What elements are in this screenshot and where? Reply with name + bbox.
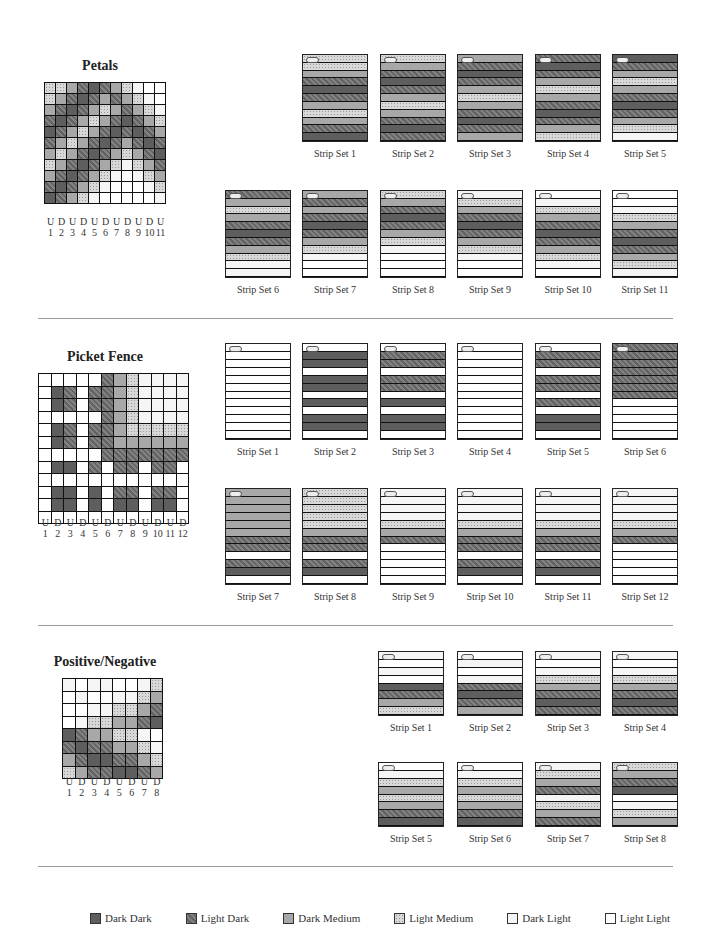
strip-band xyxy=(458,544,522,552)
strip-band xyxy=(613,125,677,133)
grid-cell xyxy=(127,399,139,411)
strip-band xyxy=(613,78,677,86)
strip-tag-icon xyxy=(382,765,395,771)
strip-set: Strip Set 8 xyxy=(612,762,678,844)
grid-cell xyxy=(39,387,51,399)
grid-cell xyxy=(177,424,189,436)
legend-label: Light Light xyxy=(620,912,670,924)
column-labels: UDUDUDUDUDU1234567891011 xyxy=(45,216,166,238)
grid-cell xyxy=(164,437,176,449)
strip-band xyxy=(613,261,677,269)
grid-cell xyxy=(52,474,64,486)
strip-band xyxy=(458,407,522,415)
grid-cell xyxy=(144,127,154,137)
strip-band xyxy=(613,668,677,676)
strip-band xyxy=(303,207,367,215)
strip-set: Strip Set 7 xyxy=(535,762,601,844)
column-direction: U xyxy=(63,776,76,787)
strip-band xyxy=(613,684,677,692)
grid-cell xyxy=(155,138,165,148)
strip-set: Strip Set 4 xyxy=(535,54,601,159)
grid-cell xyxy=(114,499,126,511)
strip-band xyxy=(458,431,522,439)
strip-band xyxy=(381,521,445,529)
grid-cell xyxy=(64,487,76,499)
grid-cell xyxy=(144,83,154,93)
swatch-icon xyxy=(90,913,101,924)
strip-band xyxy=(458,207,522,215)
grid-cell xyxy=(89,399,101,411)
grid-cell xyxy=(151,754,163,766)
strip-band xyxy=(303,118,367,126)
grid-cell xyxy=(88,692,100,704)
grid-cell xyxy=(126,717,138,729)
strip-band xyxy=(303,71,367,79)
strip-band xyxy=(613,552,677,560)
grid-cell xyxy=(89,149,99,159)
strip-band xyxy=(226,415,290,423)
strip-band xyxy=(458,261,522,269)
grid-cell xyxy=(122,160,132,170)
grid-cell xyxy=(89,193,99,203)
grid-cell xyxy=(122,83,132,93)
strip-set: Strip Set 2 xyxy=(380,54,446,159)
column-number: 7 xyxy=(111,227,122,238)
grid-cell xyxy=(64,474,76,486)
strip-band xyxy=(536,552,600,560)
strip-set: Strip Set 3 xyxy=(380,343,446,457)
strip-band xyxy=(379,787,443,795)
strip-tag-icon xyxy=(616,193,629,199)
grid-cell xyxy=(111,138,121,148)
grid-cell xyxy=(152,499,164,511)
grid-cell xyxy=(45,105,55,115)
grid-cell xyxy=(144,116,154,126)
grid-cell xyxy=(133,116,143,126)
strip-band xyxy=(303,505,367,513)
grid-cell xyxy=(45,193,55,203)
strip-band xyxy=(458,537,522,545)
grid-cell xyxy=(56,171,66,181)
strip-band xyxy=(613,207,677,215)
grid-cell xyxy=(102,412,114,424)
strip-set-bands xyxy=(302,488,368,585)
grid-cell xyxy=(127,424,139,436)
grid-cell xyxy=(78,160,88,170)
column-number: 9 xyxy=(133,227,144,238)
strip-set: Strip Set 3 xyxy=(457,54,523,159)
strip-set-bands xyxy=(225,488,291,585)
strip-band xyxy=(381,214,445,222)
grid-cell xyxy=(102,487,114,499)
grid-cell xyxy=(152,399,164,411)
strip-set: Strip Set 1 xyxy=(302,54,368,159)
strip-band xyxy=(613,199,677,207)
strip-band xyxy=(613,771,677,779)
strip-band xyxy=(536,399,600,407)
strip-band xyxy=(458,78,522,86)
grid-cell xyxy=(67,171,77,181)
strip-set-bands xyxy=(457,343,523,440)
grid-cell xyxy=(102,424,114,436)
grid-cell xyxy=(177,487,189,499)
strip-band xyxy=(226,521,290,529)
strip-band xyxy=(226,222,290,230)
legend-label: Dark Dark xyxy=(105,912,152,924)
strip-band xyxy=(381,254,445,262)
strip-band xyxy=(381,102,445,110)
strip-band xyxy=(381,71,445,79)
strip-band xyxy=(613,544,677,552)
strip-band xyxy=(458,392,522,400)
strip-band xyxy=(458,222,522,230)
strip-set-label: Strip Set 7 xyxy=(535,833,601,844)
strip-set: Strip Set 6 xyxy=(225,190,291,295)
strip-band xyxy=(458,513,522,521)
grid-cell xyxy=(111,171,121,181)
grid-cell xyxy=(78,105,88,115)
grid-cell xyxy=(100,149,110,159)
column-number: 3 xyxy=(88,787,101,798)
legend-label: Dark Light xyxy=(522,912,571,924)
grid-cell xyxy=(88,729,100,741)
strip-band xyxy=(536,497,600,505)
strip-band xyxy=(536,544,600,552)
strip-band xyxy=(226,423,290,431)
column-direction: D xyxy=(126,776,139,787)
